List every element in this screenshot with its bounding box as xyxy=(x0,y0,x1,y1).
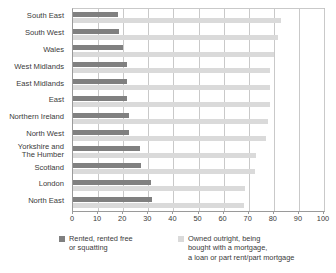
category-label: East Midlands xyxy=(0,75,68,92)
bar-owned xyxy=(73,68,270,73)
bar-owned xyxy=(73,169,255,174)
bar-row xyxy=(73,43,324,60)
x-tick-label: 40 xyxy=(168,214,176,223)
x-tick-label: 80 xyxy=(269,214,277,223)
bar-rented xyxy=(73,96,127,101)
bar-owned xyxy=(73,203,244,208)
category-label: East xyxy=(0,92,68,109)
bar-owned xyxy=(73,18,281,23)
x-tick-label: 0 xyxy=(70,214,74,223)
category-label: North West xyxy=(0,126,68,143)
category-label: Wales xyxy=(0,42,68,59)
bar-row xyxy=(73,160,324,177)
legend-swatch-icon-rented xyxy=(59,236,65,242)
category-label: North East xyxy=(0,193,68,210)
bar-rented xyxy=(73,113,129,118)
x-tick-label: 100 xyxy=(317,214,329,223)
x-tick-label: 30 xyxy=(143,214,151,223)
bar-row xyxy=(73,127,324,144)
bar-row xyxy=(73,59,324,76)
bar-owned xyxy=(73,52,274,57)
chart-legend: Rented, rented free or squatting Owned o… xyxy=(0,232,336,273)
bar-row xyxy=(73,93,324,110)
bar-rented xyxy=(73,79,127,84)
x-tick-label: 50 xyxy=(193,214,201,223)
bar-rented xyxy=(73,130,129,135)
legend-label-owned: Owned outright, being bought with a mort… xyxy=(188,234,294,262)
x-tick-label: 20 xyxy=(118,214,126,223)
category-label: South East xyxy=(0,8,68,25)
bar-rented xyxy=(73,163,141,168)
category-axis-labels: South EastSouth WestWalesWest MidlandsEa… xyxy=(0,8,68,210)
x-tick-label: 90 xyxy=(294,214,302,223)
bar-owned xyxy=(73,119,268,124)
x-axis: 0102030405060708090100 xyxy=(72,211,323,225)
x-tick-label: 60 xyxy=(218,214,226,223)
legend-swatch-icon-owned xyxy=(178,236,184,242)
category-label: South West xyxy=(0,25,68,42)
legend-entry-owned: Owned outright, being bought with a mort… xyxy=(178,234,294,262)
bar-row xyxy=(73,76,324,93)
x-tick-label: 70 xyxy=(244,214,252,223)
bar-row xyxy=(73,26,324,43)
bar-chart: South EastSouth WestWalesWest MidlandsEa… xyxy=(0,0,336,273)
bar-row xyxy=(73,110,324,127)
bar-owned xyxy=(73,153,256,158)
legend-entry-rented: Rented, rented free or squatting xyxy=(59,234,133,253)
category-label: Scotland xyxy=(0,159,68,176)
category-label: Yorkshire and The Humber xyxy=(0,143,68,160)
bar-row xyxy=(73,177,324,194)
bar-rows xyxy=(73,9,324,211)
bar-owned xyxy=(73,136,266,141)
bar-rented xyxy=(73,146,140,151)
bar-owned xyxy=(73,186,245,191)
bar-row xyxy=(73,144,324,161)
bar-rented xyxy=(73,12,118,17)
plot-wrapper: South EastSouth WestWalesWest MidlandsEa… xyxy=(0,0,336,222)
bar-owned xyxy=(73,35,278,40)
plot-area xyxy=(72,8,325,212)
category-label: Northern Ireland xyxy=(0,109,68,126)
category-label: West Midlands xyxy=(0,58,68,75)
legend-label-rented: Rented, rented free or squatting xyxy=(69,234,133,253)
bar-rented xyxy=(73,45,123,50)
bar-rented xyxy=(73,180,151,185)
x-tick-label: 10 xyxy=(93,214,101,223)
bar-row xyxy=(73,194,324,211)
bar-rented xyxy=(73,29,119,34)
bar-rented xyxy=(73,62,127,67)
category-label: London xyxy=(0,176,68,193)
bar-owned xyxy=(73,102,270,107)
bar-owned xyxy=(73,85,270,90)
gridline xyxy=(324,9,325,211)
bar-rented xyxy=(73,197,152,202)
bar-row xyxy=(73,9,324,26)
